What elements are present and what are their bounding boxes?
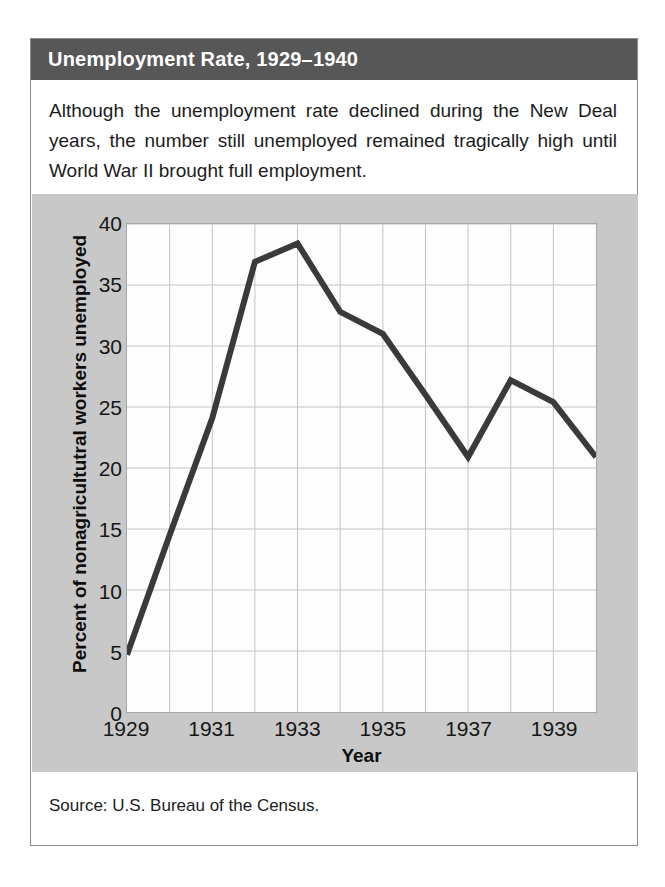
y-tick-label: 25 bbox=[76, 397, 122, 418]
chart-panel: Percent of nonagricultutral workers unem… bbox=[32, 194, 638, 772]
x-tick-label: 1933 bbox=[262, 718, 332, 739]
x-tick-label: 1937 bbox=[434, 718, 504, 739]
figure-title: Unemployment Rate, 1929–1940 bbox=[48, 48, 358, 71]
source-text: Source: U.S. Bureau of the Census. bbox=[49, 796, 319, 816]
x-tick-label: 1935 bbox=[348, 718, 418, 739]
unemployment-line bbox=[127, 244, 596, 655]
source-row: Source: U.S. Bureau of the Census. bbox=[31, 772, 637, 845]
caption-text: Although the unemployment rate declined … bbox=[49, 96, 617, 186]
y-tick-label: 20 bbox=[76, 458, 122, 479]
chart-line-svg bbox=[127, 224, 596, 712]
y-tick-label: 5 bbox=[76, 642, 122, 663]
plot-area bbox=[126, 223, 597, 713]
y-tick-label: 35 bbox=[76, 274, 122, 295]
y-tick-label: 10 bbox=[76, 581, 122, 602]
figure-header-bar: Unemployment Rate, 1929–1940 bbox=[31, 39, 637, 80]
y-tick-label: 30 bbox=[76, 336, 122, 357]
grid-lines bbox=[127, 224, 596, 712]
x-tick-label: 1931 bbox=[177, 718, 247, 739]
x-tick-label: 1929 bbox=[91, 718, 161, 739]
y-tick-label: 15 bbox=[76, 519, 122, 540]
figure-caption: Although the unemployment rate declined … bbox=[31, 80, 637, 194]
y-tick-label: 40 bbox=[76, 213, 122, 234]
x-axis-title: Year bbox=[126, 745, 597, 767]
y-axis-tick-labels: 0510152025303540 bbox=[72, 223, 122, 713]
figure-container: Unemployment Rate, 1929–1940 Although th… bbox=[30, 38, 638, 846]
x-axis-tick-labels: 192919311933193519371939 bbox=[126, 718, 597, 744]
x-tick-label: 1939 bbox=[519, 718, 589, 739]
